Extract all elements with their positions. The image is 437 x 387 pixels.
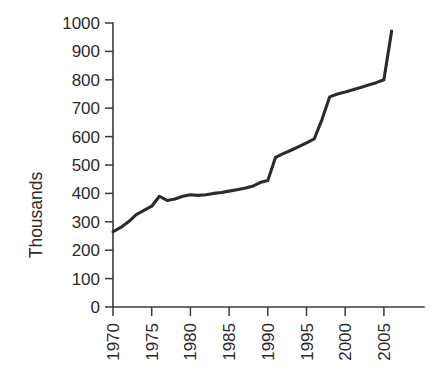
y-axis-tick-label: 0 xyxy=(91,298,100,317)
x-axis-tick-label: 2000 xyxy=(336,323,355,361)
y-axis-tick-label: 1000 xyxy=(62,14,100,33)
x-axis-tick-label: 1995 xyxy=(298,323,317,361)
y-axis-tick-label: 900 xyxy=(72,42,100,61)
x-axis-tick-label: 1990 xyxy=(259,323,278,361)
y-axis-tick-label: 200 xyxy=(72,241,100,260)
x-axis-tick-label: 1970 xyxy=(104,323,123,361)
y-axis-tick-label: 400 xyxy=(72,184,100,203)
x-axis-tick-label: 1985 xyxy=(220,323,239,361)
y-axis-tick-label: 300 xyxy=(72,213,100,232)
y-axis-tick-label: 800 xyxy=(72,71,100,90)
y-axis-title: Thousands xyxy=(26,171,46,258)
x-axis-tick-label: 1980 xyxy=(181,323,200,361)
line-chart: Thousands 010020030040050060070080090010… xyxy=(0,0,437,387)
x-axis-tick-label: 2005 xyxy=(375,323,394,361)
y-axis-tick-label: 700 xyxy=(72,99,100,118)
y-axis-tick-label: 600 xyxy=(72,128,100,147)
y-axis-tick-label: 500 xyxy=(72,156,100,175)
chart-canvas: Thousands 010020030040050060070080090010… xyxy=(0,0,437,387)
x-axis-tick-label: 1975 xyxy=(143,323,162,361)
y-axis-tick-label: 100 xyxy=(72,270,100,289)
